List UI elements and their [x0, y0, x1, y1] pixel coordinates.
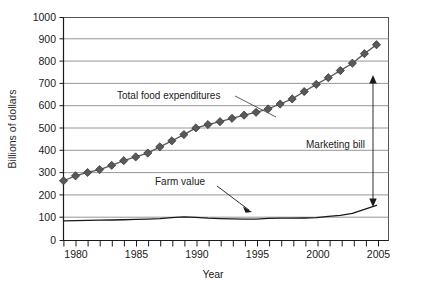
y-tick-label-0: 0 — [50, 234, 56, 246]
farm-value-label: Farm value — [155, 176, 205, 187]
y-tick-label-100: 100 — [38, 211, 56, 223]
x-tick-label-1990: 1990 — [185, 248, 209, 260]
plot-area-border — [64, 18, 389, 241]
y-tick-label-300: 300 — [38, 166, 56, 178]
x-tick-label-2000: 2000 — [306, 248, 330, 260]
y-tick-label-400: 400 — [38, 144, 56, 156]
y-axis-title: Billions of dollars — [6, 90, 18, 169]
marketing-bill-label: Marketing bill — [306, 139, 365, 150]
y-tick-label-500: 500 — [38, 122, 56, 134]
y-tick-label-700: 700 — [38, 77, 56, 89]
y-tick-label-600: 600 — [38, 99, 56, 111]
y-tick-label-800: 800 — [38, 55, 56, 67]
y-tick-label-1000: 1000 — [33, 11, 57, 23]
x-axis-ticks — [64, 241, 379, 247]
chart-svg: 0 100 200 300 400 500 600 700 800 900 10… — [0, 0, 427, 293]
total-food-expenditures-label: Total food expenditures — [117, 90, 220, 101]
x-tick-label-1985: 1985 — [125, 248, 149, 260]
x-tick-label-1980: 1980 — [64, 248, 88, 260]
y-tick-labels: 0 100 200 300 400 500 600 700 800 900 10… — [33, 11, 57, 246]
chart-figure: 0 100 200 300 400 500 600 700 800 900 10… — [0, 0, 427, 293]
x-tick-labels: 1980 1985 1990 1995 2000 2005 — [64, 248, 390, 260]
x-tick-label-1995: 1995 — [246, 248, 270, 260]
y-tick-label-900: 900 — [38, 33, 56, 45]
y-tick-label-200: 200 — [38, 189, 56, 201]
x-tick-label-2005: 2005 — [367, 248, 391, 260]
x-axis-title: Year — [202, 268, 224, 280]
